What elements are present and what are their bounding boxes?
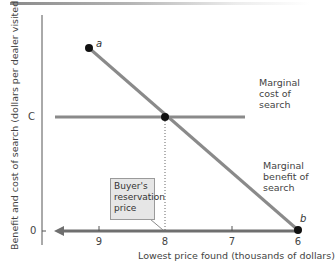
x-tick-label-8: 8 [162, 236, 168, 247]
point-a-label: a [96, 38, 102, 49]
equilibrium-point [161, 113, 169, 121]
x-axis-label: Lowest price found (thousands of dollars… [138, 250, 335, 261]
point-b-label: b [300, 213, 306, 224]
y-tick-label-c: C [28, 111, 35, 122]
marginal-benefit-label: Marginal benefit of search [263, 160, 309, 193]
point-b [294, 226, 302, 234]
reservation-box-pointer [150, 219, 163, 230]
reservation-price-box: Buyer's reservation price [110, 178, 155, 220]
y-axis-label: Benefit and cost of search (dollars per … [9, 0, 20, 250]
x-axis-arrow-icon [54, 226, 64, 236]
x-tick-label-6: 6 [295, 236, 301, 247]
marginal-cost-label: Marginal cost of search [259, 77, 300, 110]
point-a [85, 44, 93, 52]
x-tick-label-7: 7 [229, 236, 235, 247]
y-tick-label-0: 0 [30, 225, 36, 236]
x-tick-label-9: 9 [96, 236, 102, 247]
